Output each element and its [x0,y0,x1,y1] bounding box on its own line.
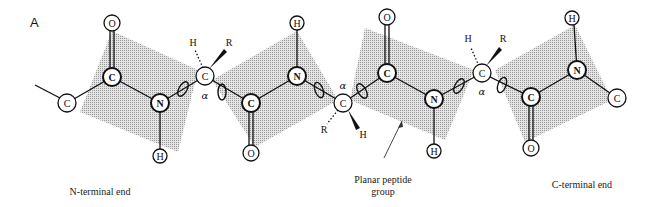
svg-text:C: C [340,98,347,109]
planar-caption-line1: Planar peptide [354,174,412,185]
n-terminal-caption: N-terminal end [70,186,131,197]
atom-c: C [608,89,626,107]
ca2-r-label: R [321,124,328,135]
alpha-label: α [202,90,209,101]
svg-text:C: C [383,68,390,79]
svg-text:N: N [573,65,581,76]
atom-n: N [288,67,306,85]
svg-text:O: O [383,12,390,23]
atom-c: C [58,94,76,112]
atom-c: C [522,88,540,106]
ca3-r-label: R [500,33,507,44]
ca1-h-label: H [189,37,196,48]
atom-c: C [378,64,396,82]
c-terminal-caption: C-terminal end [552,179,612,190]
svg-text:O: O [527,143,534,154]
atom-h: H [565,11,579,25]
svg-text:C: C [64,98,71,109]
svg-text:O: O [108,18,115,29]
svg-text:C: C [614,93,621,104]
svg-text:H: H [568,13,575,24]
atom-o: O [104,15,120,31]
svg-text:H: H [156,151,163,162]
svg-text:C: C [108,72,115,83]
ca1-r-label: R [226,37,233,48]
atom-h: H [427,144,441,158]
atom-c-alpha: C [334,94,352,112]
svg-text:C: C [527,92,534,103]
alpha-label: α [340,80,347,91]
svg-text:N: N [430,94,438,105]
svg-text:H: H [293,18,300,29]
alpha-label: α [479,86,486,97]
atom-c-alpha: C [473,64,491,82]
atom-n: N [425,90,443,108]
atom-h: H [290,16,304,30]
atom-h: H [153,149,167,163]
planar-caption-line2: group [371,186,394,197]
svg-text:C: C [202,71,209,82]
svg-text:H: H [430,146,437,157]
atom-c: C [103,68,121,86]
peptide-backbone-diagram: A [0,0,656,207]
svg-text:N: N [156,98,164,109]
svg-text:C: C [479,68,486,79]
svg-text:O: O [247,148,254,159]
panel-label: A [30,15,39,30]
atom-c: C [242,94,260,112]
atom-o: O [523,140,539,156]
atom-o: O [243,145,259,161]
atom-o: O [379,9,395,25]
svg-text:C: C [247,98,254,109]
atom-c-alpha: C [196,67,214,85]
ca2-h-label: H [359,129,366,140]
ca3-h-label: H [464,33,471,44]
atom-n: N [568,61,586,79]
svg-text:N: N [293,71,301,82]
atom-n: N [151,94,169,112]
